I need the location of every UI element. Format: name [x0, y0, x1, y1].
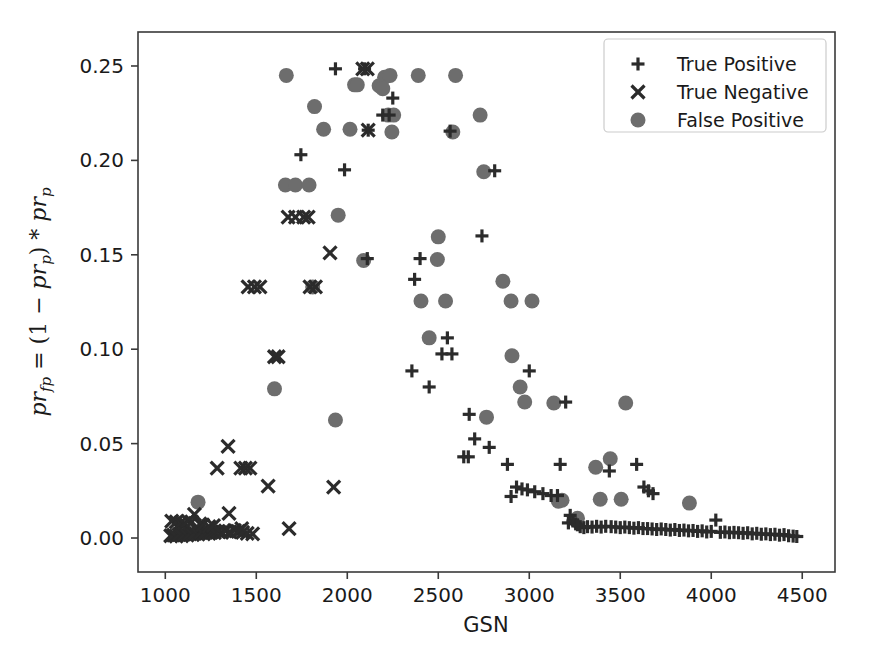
legend-marker-circle-icon: [631, 113, 646, 128]
data-point-circle: [504, 294, 519, 309]
y-tick-label: 0.15: [79, 243, 124, 267]
data-point-circle: [448, 68, 463, 83]
data-point-circle: [302, 177, 317, 192]
ylabel-sub2: p: [37, 255, 55, 265]
data-point-circle: [517, 395, 532, 410]
ylabel-sub1: fp: [37, 376, 55, 393]
data-point-circle: [682, 496, 697, 511]
legend[interactable]: True PositiveTrue NegativeFalse Positive: [604, 39, 826, 132]
x-axis-title: GSN: [463, 613, 508, 637]
y-tick-label: 0.10: [79, 337, 124, 361]
data-point-circle: [413, 294, 428, 309]
data-point-circle: [316, 122, 331, 137]
data-point-circle: [588, 460, 603, 475]
x-tick-label: 3000: [504, 583, 555, 607]
data-point-circle: [279, 68, 294, 83]
ylabel-sub3: p: [37, 187, 55, 197]
data-point-circle: [328, 413, 343, 428]
x-tick-label: 4500: [777, 583, 828, 607]
ylabel-close: ) *: [26, 222, 51, 256]
data-point-circle: [495, 274, 510, 289]
chart-canvas: 10001500200025003000350040004500 0.000.0…: [0, 0, 875, 656]
data-point-circle: [614, 492, 629, 507]
x-tick-label: 4000: [686, 583, 737, 607]
legend-label: True Negative: [676, 81, 809, 103]
x-tick-label: 2000: [322, 583, 373, 607]
data-point-circle: [343, 122, 358, 137]
y-tick-label: 0.25: [79, 54, 124, 78]
data-point-circle: [603, 451, 618, 466]
data-point-circle: [422, 330, 437, 345]
data-point-circle: [513, 379, 528, 394]
ylabel-eq: = (1: [26, 315, 51, 377]
data-point-circle: [546, 396, 561, 411]
data-point-circle: [411, 68, 426, 83]
data-point-circle: [356, 253, 371, 268]
x-tick-label: 1000: [140, 583, 191, 607]
x-tick-label: 1500: [231, 583, 282, 607]
data-point-circle: [305, 279, 320, 294]
data-point-circle: [618, 396, 633, 411]
scatter-plot-figure: 10001500200025003000350040004500 0.000.0…: [0, 0, 875, 656]
data-point-circle: [191, 495, 206, 510]
y-tick-label: 0.00: [79, 526, 124, 550]
data-point-circle: [288, 177, 303, 192]
data-point-circle: [473, 108, 488, 123]
ylabel-sym3: pr: [26, 196, 51, 222]
data-point-circle: [267, 381, 282, 396]
data-point-circle: [593, 492, 608, 507]
data-point-circle: [479, 410, 494, 425]
data-point-circle: [504, 348, 519, 363]
ylabel-minus: −: [26, 296, 51, 314]
data-point-circle: [383, 68, 398, 83]
x-tick-label: 3500: [595, 583, 646, 607]
data-point-circle: [431, 229, 446, 244]
data-point-circle: [430, 252, 445, 267]
x-tick-label: 2500: [413, 583, 464, 607]
data-point-circle: [384, 125, 399, 140]
data-point-circle: [438, 294, 453, 309]
y-tick-label: 0.05: [79, 432, 124, 456]
ylabel-sym1: pr: [26, 391, 51, 417]
data-point-circle: [331, 208, 346, 223]
data-point-circle: [524, 294, 539, 309]
data-point-circle: [375, 81, 390, 96]
y-tick-label: 0.20: [79, 148, 124, 172]
legend-label: True Positive: [676, 53, 797, 75]
data-point-circle: [307, 99, 322, 114]
ylabel-sym2: pr: [26, 263, 51, 296]
legend-label: False Positive: [677, 109, 804, 131]
data-point-circle: [350, 77, 365, 92]
